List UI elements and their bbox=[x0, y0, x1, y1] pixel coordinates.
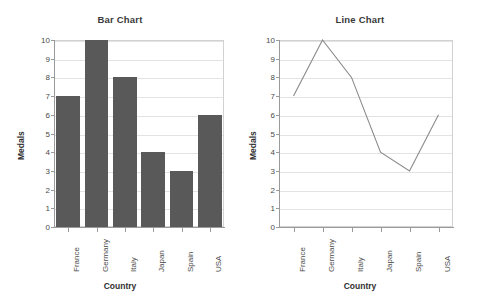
y-tick-mark bbox=[51, 152, 54, 153]
x-tick-mark bbox=[153, 228, 154, 232]
y-tick-label: 1 bbox=[4, 204, 50, 213]
x-tick-label: France bbox=[298, 247, 307, 272]
x-tick-mark bbox=[210, 228, 211, 232]
line-polyline bbox=[294, 40, 439, 171]
line-x-axis-line bbox=[279, 227, 454, 228]
bar-y-axis-title: Medals bbox=[16, 131, 26, 160]
y-tick-label: 10 bbox=[4, 36, 50, 45]
y-tick-mark bbox=[276, 134, 279, 135]
x-tick-label: Germany bbox=[327, 239, 336, 272]
y-tick-mark bbox=[276, 59, 279, 60]
x-tick-mark bbox=[294, 228, 295, 232]
bar-x-axis-title: Country bbox=[0, 281, 240, 291]
bar-series bbox=[54, 40, 224, 227]
y-tick-mark bbox=[276, 115, 279, 116]
y-tick-mark bbox=[276, 208, 279, 209]
y-tick-label: 3 bbox=[4, 166, 50, 175]
y-tick-mark bbox=[276, 40, 279, 41]
y-tick-label: 7 bbox=[4, 92, 50, 101]
x-tick-label: Japan bbox=[157, 250, 166, 272]
y-tick-mark bbox=[276, 171, 279, 172]
y-tick-mark bbox=[51, 171, 54, 172]
line-series-svg bbox=[279, 40, 453, 227]
y-tick-label: 8 bbox=[229, 73, 275, 82]
line-y-axis-title: Medals bbox=[248, 131, 258, 160]
bar bbox=[85, 40, 109, 227]
x-tick-label: USA bbox=[443, 256, 452, 272]
bar bbox=[198, 115, 222, 227]
bar bbox=[56, 96, 80, 227]
x-tick-mark bbox=[97, 228, 98, 232]
x-tick-label: Japan bbox=[385, 250, 394, 272]
bar bbox=[113, 77, 137, 227]
y-tick-label: 4 bbox=[4, 148, 50, 157]
bar-y-axis-line bbox=[54, 40, 55, 228]
y-tick-label: 0 bbox=[229, 223, 275, 232]
x-tick-mark bbox=[323, 228, 324, 232]
bar bbox=[141, 152, 165, 227]
y-tick-label: 5 bbox=[4, 129, 50, 138]
y-tick-mark bbox=[51, 227, 54, 228]
y-tick-label: 1 bbox=[229, 204, 275, 213]
bar-chart-panel: Bar Chart 012345678910 FranceGermanyItal… bbox=[0, 0, 240, 303]
y-tick-mark bbox=[276, 190, 279, 191]
y-tick-mark bbox=[51, 134, 54, 135]
x-tick-label: USA bbox=[214, 256, 223, 272]
y-tick-label: 0 bbox=[4, 223, 50, 232]
y-tick-mark bbox=[51, 40, 54, 41]
y-tick-label: 9 bbox=[229, 54, 275, 63]
y-tick-label: 8 bbox=[4, 73, 50, 82]
x-tick-mark bbox=[381, 228, 382, 232]
x-tick-label: Italy bbox=[129, 257, 138, 272]
y-tick-mark bbox=[51, 59, 54, 60]
y-tick-label: 6 bbox=[4, 110, 50, 119]
line-y-axis-line bbox=[279, 40, 280, 228]
y-tick-mark bbox=[51, 190, 54, 191]
x-tick-label: France bbox=[72, 247, 81, 272]
y-tick-mark bbox=[51, 96, 54, 97]
y-tick-label: 10 bbox=[229, 36, 275, 45]
charts-figure: Bar Chart 012345678910 FranceGermanyItal… bbox=[0, 0, 480, 303]
line-chart-title: Line Chart bbox=[240, 14, 480, 25]
line-chart-panel: Line Chart 012345678910 FranceGermanyIta… bbox=[240, 0, 480, 303]
x-tick-mark bbox=[68, 228, 69, 232]
x-tick-label: Spain bbox=[186, 252, 195, 272]
y-tick-label: 2 bbox=[4, 185, 50, 194]
y-tick-label: 9 bbox=[4, 54, 50, 63]
bar-chart-title: Bar Chart bbox=[0, 14, 240, 25]
x-tick-mark bbox=[439, 228, 440, 232]
y-tick-label: 7 bbox=[229, 92, 275, 101]
bar-x-axis-line bbox=[54, 227, 225, 228]
x-tick-label: Italy bbox=[356, 257, 365, 272]
line-x-axis-title: Country bbox=[240, 281, 480, 291]
bar bbox=[170, 171, 194, 227]
y-tick-mark bbox=[51, 208, 54, 209]
line-series bbox=[279, 40, 453, 227]
x-tick-mark bbox=[410, 228, 411, 232]
x-tick-label: Germany bbox=[101, 239, 110, 272]
x-tick-mark bbox=[125, 228, 126, 232]
y-tick-label: 3 bbox=[229, 166, 275, 175]
y-tick-mark bbox=[276, 227, 279, 228]
y-tick-mark bbox=[276, 152, 279, 153]
y-tick-label: 6 bbox=[229, 110, 275, 119]
y-tick-mark bbox=[276, 77, 279, 78]
y-tick-mark bbox=[276, 96, 279, 97]
y-tick-mark bbox=[51, 77, 54, 78]
y-tick-mark bbox=[51, 115, 54, 116]
y-tick-label: 2 bbox=[229, 185, 275, 194]
x-tick-mark bbox=[182, 228, 183, 232]
x-tick-label: Spain bbox=[414, 252, 423, 272]
x-tick-mark bbox=[352, 228, 353, 232]
